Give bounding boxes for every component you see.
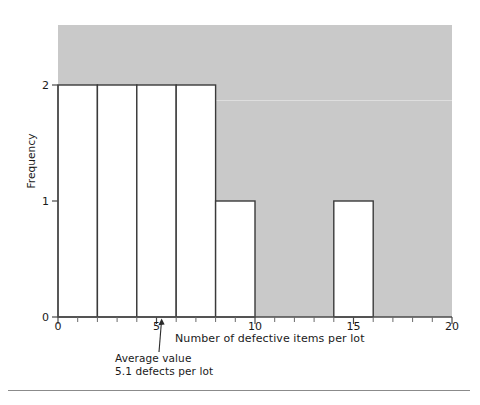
y-tick-label-1: 1 [33, 195, 49, 208]
y-axis-title: Frequency [25, 121, 37, 201]
bar-14-16 [334, 201, 373, 317]
footer-rule [8, 390, 470, 391]
y-tick-label-2: 2 [33, 79, 49, 92]
bar-8-10 [216, 201, 255, 317]
average-value-annotation: Average value 5.1 defects per lot [115, 352, 213, 378]
x-tick-label-0: 0 [46, 320, 70, 333]
annotation-line-1: Average value [115, 352, 213, 365]
histogram-bars [58, 85, 373, 317]
x-tick-label-5: 5 [145, 320, 169, 333]
y-axis-ticks [52, 85, 58, 317]
bar-2-4 [97, 85, 136, 317]
annotation-line-2: 5.1 defects per lot [115, 365, 213, 378]
bar-6-8 [176, 85, 215, 317]
histogram-figure: Frequency 0 1 2 0 5 10 15 20 Number of d… [0, 0, 480, 405]
bar-4-6 [137, 85, 176, 317]
x-tick-label-20: 20 [440, 320, 464, 333]
x-axis-title: Number of defective items per lot [175, 332, 365, 345]
bar-0-2 [58, 85, 97, 317]
